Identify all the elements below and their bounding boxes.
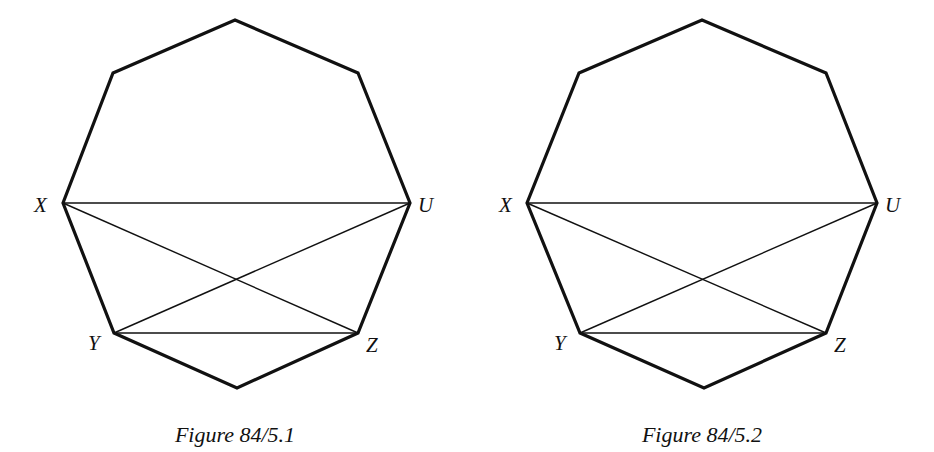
vertex-label-y: Y	[554, 331, 568, 355]
figure-2: X U Y Z Figure 84/5.2	[498, 20, 902, 447]
figure-caption: Figure 84/5.1	[174, 422, 295, 447]
figure-caption: Figure 84/5.2	[641, 422, 762, 447]
vertex-label-x: X	[33, 193, 48, 217]
diagram-canvas: X U Y Z Figure 84/5.1 X U Y Z Figure 84/…	[0, 0, 934, 452]
vertex-label-z: Z	[834, 333, 846, 357]
figure-1: X U Y Z Figure 84/5.1	[33, 20, 435, 447]
vertex-label-u: U	[418, 193, 435, 217]
vertex-label-z: Z	[366, 333, 378, 357]
vertex-label-x: X	[498, 193, 513, 217]
vertex-label-y: Y	[88, 331, 102, 355]
vertex-label-u: U	[885, 193, 902, 217]
